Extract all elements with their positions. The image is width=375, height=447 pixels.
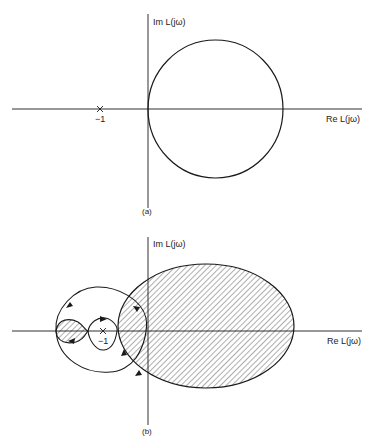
- figure-a: −1 Im L(jω) Re L(jω) (a): [12, 14, 362, 216]
- real-axis-label-a: Re L(jω): [326, 114, 360, 124]
- arrow-up-icon: [66, 302, 73, 308]
- figure-b: −1 Im L(jω) Re L(jω) (b): [12, 237, 362, 436]
- arrow-up-icon: [135, 370, 142, 376]
- arrow-right-icon: [100, 316, 107, 322]
- imag-axis-label-a: Im L(jω): [153, 17, 186, 27]
- imag-axis-label-b: Im L(jω): [153, 239, 186, 249]
- caption-a: (a): [142, 207, 152, 216]
- real-axis-label-b: Re L(jω): [327, 336, 361, 346]
- critical-point-label-a: −1: [95, 114, 105, 124]
- hatched-ellipse: [118, 264, 294, 388]
- caption-b: (b): [142, 427, 152, 436]
- critical-point-label-b: −1: [98, 336, 108, 346]
